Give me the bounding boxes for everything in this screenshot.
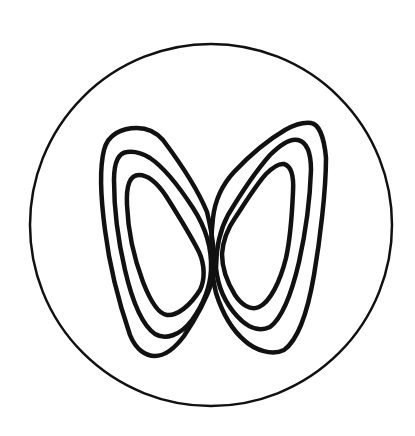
illustration-canvas	[0, 0, 415, 436]
butterfly-loop-illustration: Hand-drawn circle enclosing a butterfly-…	[0, 0, 415, 436]
